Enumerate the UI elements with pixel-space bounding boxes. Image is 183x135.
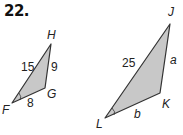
side-label-kl: b (134, 108, 141, 120)
vertex-label-g: G (47, 88, 56, 100)
side-label-gh: 9 (51, 61, 58, 73)
vertex-label-j: J (168, 6, 174, 18)
side-label-fh: 15 (21, 61, 34, 73)
vertex-label-h: H (47, 29, 56, 41)
side-label-jl: 25 (122, 57, 135, 69)
vertex-label-l: L (96, 118, 103, 130)
vertex-label-f: F (2, 104, 9, 116)
side-label-fg: 8 (27, 97, 34, 109)
side-label-jk: a (170, 54, 177, 66)
triangle-jkl (105, 24, 170, 118)
vertex-label-k: K (162, 98, 170, 110)
